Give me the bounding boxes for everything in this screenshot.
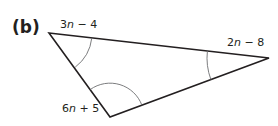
variable: n — [67, 18, 74, 31]
angle-label-right: 2n − 8 — [227, 36, 264, 49]
variable: n — [234, 36, 241, 49]
constant-term: − 4 — [74, 18, 97, 31]
constant-term: − 8 — [241, 36, 264, 49]
part-label: (b) — [12, 17, 40, 37]
triangle-figure: (b) 3n − 4 2n − 8 6n + 5 — [0, 0, 278, 126]
triangle-diagram — [0, 0, 278, 126]
angle-arc-right — [207, 51, 211, 80]
coefficient: 6 — [62, 102, 69, 115]
coefficient: 2 — [227, 36, 234, 49]
variable: n — [69, 102, 76, 115]
constant-term: + 5 — [76, 102, 99, 115]
angle-arc-top-left — [75, 38, 92, 67]
coefficient: 3 — [60, 18, 67, 31]
angle-label-top-left: 3n − 4 — [60, 18, 97, 31]
angle-label-bottom: 6n + 5 — [62, 102, 99, 115]
